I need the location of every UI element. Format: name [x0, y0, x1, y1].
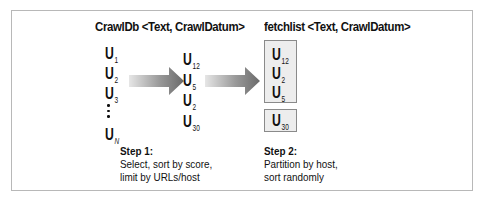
diagram-frame — [11, 10, 473, 191]
selected-item-u12: U12 — [183, 51, 200, 71]
fetchlist-item-u2: U2 — [272, 65, 285, 85]
selected-item-u2: U2 — [183, 92, 196, 112]
fetchlist-item-u5: U5 — [272, 84, 285, 104]
right-arrow-icon — [205, 66, 261, 96]
selected-item-u30: U30 — [183, 113, 200, 133]
crawldb-title: CrawlDb <Text, CrawlDatum> — [95, 19, 245, 34]
fetchlist-item-u12: U12 — [272, 46, 289, 66]
ellipsis-vertical-icon — [107, 104, 110, 118]
step-1-caption: Step 1: Select, sort by score, limit by … — [120, 145, 212, 184]
right-arrow-icon — [129, 66, 185, 96]
step-2-line-2: sort randomly — [264, 171, 338, 184]
crawldb-item-u3: U3 — [105, 85, 118, 105]
fetchlist-item-u30: U30 — [272, 112, 289, 132]
fetchlist-title: fetchlist <Text, CrawlDatum> — [264, 19, 410, 34]
selected-item-u5: U5 — [183, 72, 196, 92]
step-1-line-2: limit by URLs/host — [120, 171, 212, 184]
step-2-caption: Step 2: Partition by host, sort randomly — [264, 145, 338, 184]
crawldb-item-u1: U1 — [105, 45, 118, 65]
step-2-heading: Step 2: — [264, 145, 338, 158]
crawldb-item-u2: U2 — [105, 65, 118, 85]
step-2-line-1: Partition by host, — [264, 158, 338, 171]
step-1-line-1: Select, sort by score, — [120, 158, 212, 171]
crawldb-item-un: UN — [105, 126, 119, 146]
step-1-heading: Step 1: — [120, 145, 212, 158]
